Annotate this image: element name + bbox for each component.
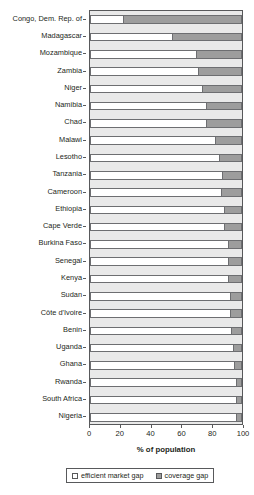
bar-segment-coverage-gap [202, 85, 242, 94]
x-axis-tick-label: 80 [208, 429, 216, 438]
bar-segment-coverage-gap [221, 188, 242, 197]
x-axis-tick [151, 425, 152, 428]
bar-row [90, 85, 242, 94]
y-axis-tick [83, 261, 86, 262]
y-axis-tick [83, 209, 86, 210]
y-axis-tick [83, 140, 86, 141]
bar-segment-efficient-market-gap [90, 257, 228, 266]
bar-segment-coverage-gap [219, 154, 242, 163]
bar-row [90, 309, 242, 318]
bar-segment-coverage-gap [206, 102, 242, 111]
bar-segment-coverage-gap [198, 67, 242, 76]
y-axis-label: Benin [63, 326, 82, 333]
bar-segment-efficient-market-gap [90, 154, 219, 163]
legend-swatch-coverage [156, 473, 162, 479]
bar-segment-coverage-gap [206, 119, 242, 128]
y-axis-label: Côte d'Ivoire [41, 309, 82, 316]
y-axis-tick [83, 295, 86, 296]
bar-segment-coverage-gap [231, 327, 242, 336]
x-axis-tick-label: 0 [87, 429, 91, 438]
bar-row [90, 257, 242, 266]
bar-segment-efficient-market-gap [90, 102, 206, 111]
y-axis-tick [83, 416, 86, 417]
y-axis-tick [83, 243, 86, 244]
bar-row [90, 275, 242, 284]
bar-row [90, 15, 242, 24]
bar-segment-coverage-gap [230, 292, 242, 301]
y-axis-tick [83, 19, 86, 20]
bar-segment-efficient-market-gap [90, 85, 202, 94]
y-axis-label: Senegal [55, 257, 82, 264]
bar-segment-efficient-market-gap [90, 223, 224, 232]
y-axis-tick [83, 105, 86, 106]
bar-segment-coverage-gap [224, 223, 242, 232]
bar-segment-coverage-gap [236, 396, 242, 405]
y-axis-tick [83, 122, 86, 123]
bar-segment-efficient-market-gap [90, 50, 196, 59]
y-axis-label: South Africa [42, 395, 82, 402]
y-axis-tick [83, 278, 86, 279]
bar-segment-coverage-gap [222, 171, 242, 180]
bar-row [90, 119, 242, 128]
x-axis-tick-label: 20 [116, 429, 124, 438]
y-axis-label: Madagascar [41, 32, 82, 39]
legend-swatch-efficient [72, 473, 78, 479]
bar-segment-coverage-gap [224, 206, 242, 215]
x-axis-tick-label: 100 [237, 429, 250, 438]
y-axis-label: Burkina Faso [38, 239, 82, 246]
y-axis-tick [83, 347, 86, 348]
bar-segment-coverage-gap [236, 413, 242, 422]
bar-segment-coverage-gap [123, 15, 242, 24]
bar-segment-efficient-market-gap [90, 309, 230, 318]
legend-label: efficient market gap [81, 471, 144, 480]
y-axis-label: Rwanda [55, 378, 82, 385]
y-axis-tick [83, 174, 86, 175]
y-axis-tick [83, 226, 86, 227]
bar-row [90, 102, 242, 111]
bar-segment-efficient-market-gap [90, 396, 236, 405]
x-axis-tick [89, 425, 90, 428]
legend-item: efficient market gap [72, 471, 144, 480]
x-axis-tick [212, 425, 213, 428]
bar-segment-efficient-market-gap [90, 413, 236, 422]
bar-row [90, 292, 242, 301]
legend-label: coverage gap [165, 471, 209, 480]
bar-row [90, 154, 242, 163]
bar-segment-coverage-gap [236, 378, 242, 387]
bar-segment-efficient-market-gap [90, 67, 198, 76]
y-axis-tick [83, 71, 86, 72]
bar-segment-efficient-market-gap [90, 15, 123, 24]
bar-segment-coverage-gap [233, 344, 242, 353]
bar-row [90, 361, 242, 370]
bar-row [90, 50, 242, 59]
bar-segment-efficient-market-gap [90, 327, 231, 336]
y-axis-label: Tanzania [52, 170, 82, 177]
bar-segment-efficient-market-gap [90, 33, 172, 42]
bar-segment-coverage-gap [228, 275, 242, 284]
y-axis-label: Niger [64, 84, 82, 91]
bar-segment-coverage-gap [228, 257, 242, 266]
bar-row [90, 171, 242, 180]
bar-segment-efficient-market-gap [90, 188, 221, 197]
bar-row [90, 396, 242, 405]
bar-row [90, 188, 242, 197]
bar-row [90, 67, 242, 76]
y-axis-label: Chad [64, 118, 82, 125]
stacked-bar-chart: Congo, Dem. Rep. ofMadagascarMozambiqueZ… [0, 0, 254, 495]
bar-segment-efficient-market-gap [90, 275, 228, 284]
bar-segment-efficient-market-gap [90, 378, 236, 387]
y-axis-label: Ghana [60, 360, 82, 367]
y-axis-tick [83, 88, 86, 89]
bar-row [90, 413, 242, 422]
y-axis-label: Namibia [55, 101, 82, 108]
bar-row [90, 136, 242, 145]
bar-segment-coverage-gap [215, 136, 242, 145]
x-axis-tick [120, 425, 121, 428]
y-axis-tick [83, 313, 86, 314]
bar-row [90, 344, 242, 353]
y-axis-label: Malawi [59, 136, 82, 143]
x-axis-tick-label: 40 [146, 429, 154, 438]
chart-legend: efficient market gapcoverage gap [66, 468, 214, 483]
y-axis-label: Kenya [61, 274, 82, 281]
x-axis: 020406080100 [89, 425, 243, 447]
